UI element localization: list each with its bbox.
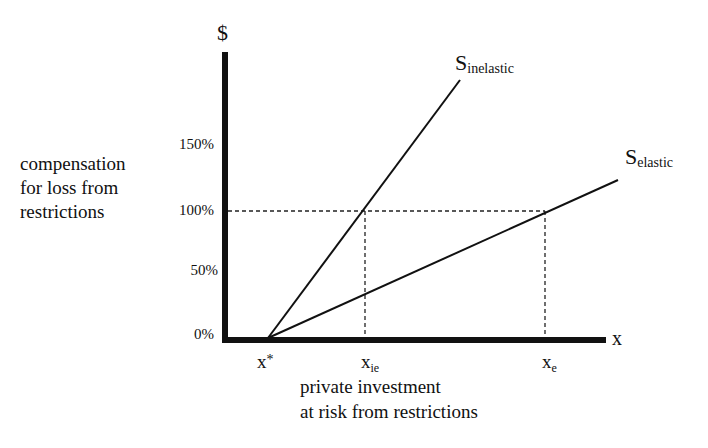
s-inelastic-label: Sinelastic: [455, 52, 514, 76]
x-tick-xe: xe: [542, 352, 557, 374]
x-tick-xie: xie: [361, 352, 379, 374]
y-tick-0: 0%: [154, 327, 214, 342]
y-axis-symbol: $: [217, 22, 228, 44]
s-inelastic-line: [268, 80, 460, 338]
y-tick-100: 100%: [154, 203, 214, 218]
s-elastic-label: Selastic: [625, 146, 673, 170]
x-tick-xstar: x*: [257, 352, 274, 371]
y-axis-label: compensation for loss from restrictions: [20, 152, 126, 224]
x-axis-symbol: x: [612, 328, 622, 348]
x-axis-label: private investment at risk from restrict…: [300, 374, 478, 424]
y-tick-50: 50%: [158, 263, 218, 278]
s-elastic-line: [268, 180, 618, 338]
y-tick-150: 150%: [154, 137, 214, 152]
